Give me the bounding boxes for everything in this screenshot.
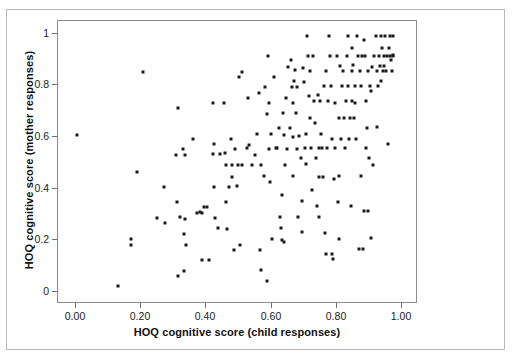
- scatter-point: [226, 227, 229, 230]
- scatter-point: [212, 152, 215, 155]
- scatter-point: [304, 162, 307, 165]
- scatter-point: [316, 94, 319, 97]
- scatter-point: [245, 146, 248, 149]
- scatter-point: [385, 69, 388, 72]
- scatter-point: [281, 194, 284, 197]
- scatter-point: [320, 147, 323, 150]
- scatter-point: [342, 69, 345, 72]
- x-tick-label: 0.40: [195, 311, 215, 322]
- scatter-point: [241, 70, 244, 73]
- scatter-point: [313, 99, 316, 102]
- scatter-point: [358, 69, 361, 72]
- scatter-point: [182, 148, 185, 151]
- scatter-point: [369, 84, 372, 87]
- scatter-point: [376, 84, 379, 87]
- scatter-point: [339, 64, 342, 67]
- scatter-point: [331, 257, 334, 260]
- scatter-point: [273, 75, 276, 78]
- scatter-point: [284, 163, 287, 166]
- scatter-point: [326, 100, 329, 103]
- y-axis-title: HOQ cognitive score (mother responses): [23, 19, 35, 302]
- scatter-point: [307, 94, 310, 97]
- scatter-point: [251, 163, 254, 166]
- scatter-point: [285, 96, 288, 99]
- scatter-point: [370, 237, 373, 240]
- scatter-point: [315, 156, 318, 159]
- scatter-point: [253, 153, 256, 156]
- scatter-point: [324, 252, 327, 255]
- scatter-point: [175, 154, 178, 157]
- scatter-point: [371, 65, 374, 68]
- x-tick-mark: [140, 303, 141, 308]
- scatter-point: [314, 121, 317, 124]
- scatter-point: [379, 79, 382, 82]
- scatter-point: [383, 64, 386, 67]
- scatter-point: [325, 69, 328, 72]
- x-tick-label: 0.80: [326, 311, 346, 322]
- scatter-point: [373, 55, 376, 58]
- scatter-point: [349, 205, 352, 208]
- x-tick-mark: [271, 303, 272, 308]
- scatter-point: [295, 112, 298, 115]
- scatter-point: [116, 285, 119, 288]
- scatter-point: [227, 186, 230, 189]
- scatter-point: [201, 258, 204, 261]
- scatter-point: [309, 70, 312, 73]
- scatter-point: [176, 201, 179, 204]
- scatter-point: [76, 134, 79, 137]
- scatter-point: [387, 47, 390, 50]
- scatter-point: [291, 174, 294, 177]
- scatter-point: [176, 107, 179, 110]
- scatter-point: [164, 222, 167, 225]
- scatter-point: [202, 206, 205, 209]
- scatter-point: [142, 71, 145, 74]
- scatter-point: [346, 35, 349, 38]
- scatter-point: [382, 69, 385, 72]
- scatter-point: [182, 232, 185, 235]
- scatter-point: [359, 84, 362, 87]
- scatter-point: [377, 55, 380, 58]
- scatter-point: [317, 147, 320, 150]
- scatter-point: [296, 148, 299, 151]
- scatter-point: [257, 91, 260, 94]
- scatter-point: [223, 101, 226, 104]
- scatter-point: [327, 35, 330, 38]
- scatter-point: [271, 237, 274, 240]
- scatter-point: [129, 243, 132, 246]
- scatter-point: [318, 99, 321, 102]
- scatter-point: [351, 47, 354, 50]
- scatter-point: [374, 35, 377, 38]
- scatter-point: [318, 216, 321, 219]
- scatter-point: [234, 147, 237, 150]
- scatter-point: [365, 127, 368, 130]
- scatter-point: [345, 55, 348, 58]
- scatter-point: [206, 206, 209, 209]
- scatter-point: [216, 227, 219, 230]
- scatter-point: [258, 248, 261, 251]
- scatter-point: [218, 152, 221, 155]
- scatter-point: [212, 143, 215, 146]
- scatter-point: [267, 101, 270, 104]
- scatter-point: [264, 86, 267, 89]
- scatter-point: [391, 53, 394, 56]
- scatter-point: [256, 133, 259, 136]
- x-tick-label: 1.00: [391, 311, 411, 322]
- scatter-point: [260, 268, 263, 271]
- scatter-point: [303, 146, 306, 149]
- scatter-point: [310, 147, 313, 150]
- scatter-point: [353, 84, 356, 87]
- scatter-point: [311, 189, 314, 192]
- scatter-points-layer: [58, 21, 416, 302]
- scatter-point: [177, 274, 180, 277]
- scatter-point: [322, 175, 325, 178]
- scatter-point: [282, 134, 285, 137]
- scatter-point: [326, 146, 329, 149]
- scatter-point: [281, 238, 284, 241]
- scatter-point: [283, 241, 286, 244]
- scatter-point: [201, 211, 204, 214]
- scatter-point: [364, 55, 367, 58]
- scatter-point: [290, 86, 293, 89]
- scatter-point: [328, 55, 331, 58]
- scatter-point: [300, 231, 303, 234]
- scatter-point: [348, 117, 351, 120]
